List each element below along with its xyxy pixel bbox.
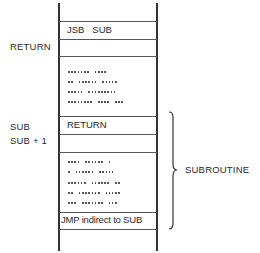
dot-group [68,192,73,194]
dot-placeholder-row [68,160,110,164]
subroutine-brace-icon [166,110,182,232]
jmp-instruction-text: JMP indirect to SUB [61,214,142,225]
dot-group [95,71,106,73]
dot-group [68,101,92,103]
dot-placeholder-row [68,70,106,74]
dot [74,161,76,163]
dot [107,91,109,93]
dot-placeholder-row [68,181,120,185]
dot [71,161,73,163]
dot [82,192,84,194]
dot [118,192,120,194]
dot [79,81,81,83]
dot [68,192,70,194]
dot [78,101,80,103]
subroutine-label: SUBROUTINE [185,164,249,176]
dot [102,171,104,173]
dot [95,161,97,163]
dot [85,81,87,83]
dot [114,91,116,93]
dot-group [109,161,111,163]
dot-group [115,182,120,184]
dot [68,202,70,204]
memory-column-right-border [156,3,158,251]
dot-group [76,171,94,173]
dot [104,71,106,73]
dot [92,202,94,204]
dot [101,161,103,163]
dot [95,182,97,184]
dot [74,101,76,103]
dot-group [68,171,70,173]
dot [98,71,100,73]
dot [98,161,100,163]
dot-placeholder-row [68,80,117,84]
sub-label: SUB [10,121,30,133]
cell-divider [59,21,157,22]
dot [109,202,111,204]
dot [118,182,120,184]
dot [79,192,81,194]
dot [112,81,114,83]
dot [71,202,73,204]
dot [82,171,84,173]
dot-group [82,202,103,204]
dot-group [99,171,113,173]
jmp-instruction-cell: JMP indirect to SUB [61,214,142,226]
memory-column-left-border [58,3,60,251]
dot-group [115,101,123,103]
dot [115,202,117,204]
dot [71,101,73,103]
dot [88,171,90,173]
dot-group [88,91,115,93]
dot [68,182,70,184]
dot-group [68,91,82,93]
dot [71,91,73,93]
cell-divider [59,229,157,230]
cell-divider [59,56,157,57]
dot [109,81,111,83]
dot [81,182,83,184]
dot [87,71,89,73]
dot [101,71,103,73]
cell-divider [59,116,157,117]
dot [99,171,101,173]
dot [68,161,70,163]
sub-plus-1-label: SUB + 1 [10,135,47,147]
dot [88,192,90,194]
dot [95,91,97,93]
cell-divider [59,152,157,153]
dot [71,71,73,73]
dot [115,101,117,103]
dot [104,101,106,103]
dot [101,91,103,93]
dot-placeholder-row [68,201,117,205]
dot-placeholder-row [68,90,115,94]
dot-group [79,192,100,194]
dot [102,81,104,83]
dot [98,101,100,103]
return-address-label: RETURN [10,41,51,53]
dot-placeholder-row [68,170,113,174]
dot [90,101,92,103]
dot [115,182,117,184]
dot-group [79,81,97,83]
dot-placeholder-row [68,100,123,104]
dot [85,161,87,163]
dot [88,161,90,163]
dot [68,101,70,103]
dot [85,192,87,194]
dot [71,81,73,83]
cell-divider [59,39,157,40]
dot [82,202,84,204]
dot [95,192,97,194]
dot [68,91,70,93]
dot-group [68,202,76,204]
dot-group [68,81,73,83]
dot-group [98,101,109,103]
cell-divider [59,134,157,135]
jsb-instruction-text: JSB SUB [67,24,112,35]
dot [95,202,97,204]
dot [98,192,100,194]
dot [112,192,114,194]
